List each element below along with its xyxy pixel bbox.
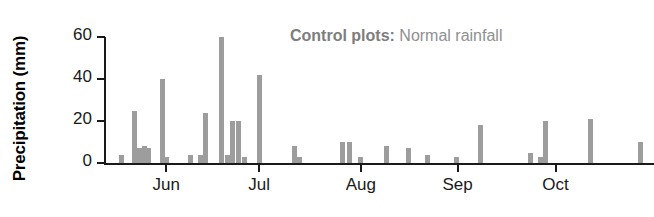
bar [588, 119, 593, 163]
x-tick-oct [555, 165, 557, 172]
bar [257, 75, 262, 163]
legend-label-bold: Control plots: [290, 27, 395, 44]
legend-label-normal: Normal rainfall [395, 27, 503, 44]
bar [543, 121, 548, 163]
x-tick-label-aug: Aug [346, 175, 376, 195]
x-tick-jul [258, 165, 260, 172]
x-tick-label-jun: Jun [152, 175, 179, 195]
bar [188, 155, 193, 163]
y-tick-label-60: 60 [73, 26, 92, 44]
bar [297, 157, 302, 163]
bar [119, 155, 124, 163]
x-tick-jun [165, 165, 167, 172]
bar [478, 125, 483, 163]
x-tick-aug [360, 165, 362, 172]
bar [164, 157, 169, 163]
bar [406, 148, 411, 163]
bar [358, 157, 363, 163]
bar [160, 79, 165, 163]
y-tick-label-20: 20 [73, 110, 92, 128]
bar [384, 146, 389, 163]
bar [230, 121, 235, 163]
x-tick-label-sep: Sep [443, 175, 473, 195]
bar [219, 37, 224, 163]
bars-layer [104, 30, 654, 165]
y-tick-label-40: 40 [73, 68, 92, 86]
plot-area: 0204060 JunJulAugSepOct [104, 30, 654, 170]
x-tick-sep [457, 165, 459, 172]
bar [425, 155, 430, 163]
bar [638, 142, 643, 163]
bar [340, 142, 345, 163]
x-tick-label-oct: Oct [542, 175, 568, 195]
bar [347, 142, 352, 163]
y-axis-title: Precipitation (mm) [0, 0, 40, 217]
bar [454, 157, 459, 163]
bar [528, 153, 533, 164]
bar [146, 148, 151, 163]
legend: Control plots: Normal rainfall [290, 27, 502, 45]
y-tick-label-0: 0 [83, 152, 92, 170]
x-tick-label-jul: Jul [248, 175, 270, 195]
bar [236, 121, 241, 163]
precipitation-bar-chart: Precipitation (mm) 0204060 JunJulAugSepO… [0, 0, 654, 217]
bar [242, 157, 247, 163]
bar [203, 113, 208, 163]
